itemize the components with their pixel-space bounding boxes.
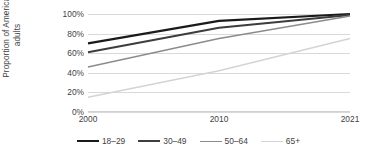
series-line: [88, 39, 350, 98]
legend-label: 50–64: [225, 136, 248, 146]
series-line: [88, 16, 350, 67]
legend-label: 30–49: [163, 136, 186, 146]
legend-label: 18–29: [102, 136, 125, 146]
y-tick-label: 100%: [63, 9, 84, 19]
y-tick-label: 40%: [67, 68, 84, 78]
gridline: [88, 112, 350, 113]
x-tick-label: 2000: [79, 114, 98, 124]
y-tick-label: 20%: [67, 87, 84, 97]
legend-label: 65+: [286, 136, 300, 146]
legend-item[interactable]: 30–49: [138, 136, 186, 146]
legend-item[interactable]: 65+: [261, 136, 300, 146]
x-tick-label: 2010: [210, 114, 229, 124]
legend-swatch-line-icon: [138, 140, 160, 142]
legend-item[interactable]: 18–29: [77, 136, 125, 146]
x-axis-tick-labels: 200020102021: [88, 114, 350, 128]
y-tick-label: 80%: [67, 29, 84, 39]
legend-item[interactable]: 50–64: [200, 136, 248, 146]
legend-swatch-line-icon: [77, 140, 99, 142]
x-axis-line: [88, 111, 350, 112]
y-tick-label: 60%: [67, 48, 84, 58]
line-chart: Proportion of American adults 0%20%40%60…: [0, 0, 377, 155]
x-tick-label: 2021: [341, 114, 360, 124]
legend-swatch-line-icon: [261, 141, 283, 142]
y-axis-tick-labels: 0%20%40%60%80%100%: [52, 14, 84, 112]
chart-legend: 18–2930–4950–6465+: [0, 133, 377, 149]
plot-area: [88, 14, 350, 112]
legend-swatch-line-icon: [200, 141, 222, 142]
y-axis-title: Proportion of American adults: [2, 0, 32, 90]
series-lines: [88, 14, 350, 112]
